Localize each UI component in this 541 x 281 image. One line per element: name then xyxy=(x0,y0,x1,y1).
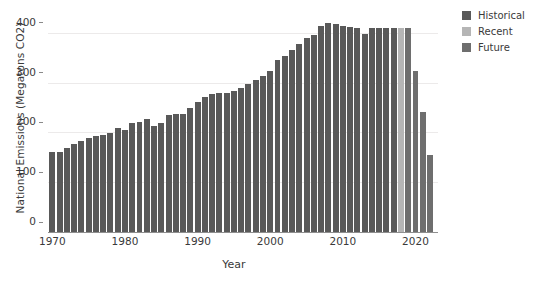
x-axis-title: Year xyxy=(48,258,420,271)
x-axis-tick-label: 2010 xyxy=(329,235,356,247)
bar xyxy=(369,28,375,233)
bar xyxy=(158,123,164,233)
legend-swatch xyxy=(462,27,471,36)
legend-item: Recent xyxy=(462,24,538,39)
y-tick-mark xyxy=(39,72,43,73)
bar xyxy=(115,128,121,233)
chart-legend: HistoricalRecentFuture xyxy=(462,8,538,56)
legend-swatch xyxy=(462,43,471,52)
bar xyxy=(180,114,186,233)
bar xyxy=(78,141,84,233)
bar xyxy=(86,138,92,233)
legend-item: Future xyxy=(462,40,538,55)
bar xyxy=(398,28,404,233)
bar xyxy=(405,28,411,233)
bar xyxy=(224,93,230,233)
bar xyxy=(166,115,172,233)
bar xyxy=(64,148,70,233)
bar xyxy=(260,76,266,233)
legend-label: Historical xyxy=(478,10,525,21)
bar xyxy=(137,122,143,233)
bar xyxy=(376,28,382,233)
bar xyxy=(245,84,251,233)
bar-chart-figure: National Emissions (Megatons CO2) 010020… xyxy=(0,0,541,281)
bar xyxy=(71,144,77,233)
bar xyxy=(195,102,201,233)
bar xyxy=(100,135,106,233)
y-axis-tick-label: 200 xyxy=(16,115,43,127)
bar xyxy=(325,23,331,233)
bar xyxy=(49,152,55,233)
legend-swatch xyxy=(462,11,471,20)
bar xyxy=(129,123,135,233)
y-axis-tick-label: 0 xyxy=(29,215,43,227)
bar xyxy=(289,50,295,233)
bar xyxy=(144,119,150,233)
bar xyxy=(216,93,222,233)
bar xyxy=(267,71,273,233)
y-axis-tick-label: 100 xyxy=(16,165,43,177)
x-axis-line xyxy=(48,232,438,233)
bar xyxy=(304,38,310,233)
x-axis-tick-label: 1970 xyxy=(39,235,66,247)
bar xyxy=(311,35,317,233)
y-tick-mark xyxy=(39,22,43,23)
bar xyxy=(333,24,339,233)
bar xyxy=(202,97,208,233)
bar xyxy=(347,27,353,233)
x-axis-tick-label: 2020 xyxy=(402,235,429,247)
x-axis-tick-label: 1980 xyxy=(112,235,139,247)
bar xyxy=(107,133,113,233)
y-tick-mark xyxy=(39,222,43,223)
legend-item: Historical xyxy=(462,8,538,23)
bar xyxy=(173,114,179,233)
plot-area: 0100200300400 197019801990200020102020 xyxy=(48,14,438,233)
x-axis-tick-label: 1990 xyxy=(184,235,211,247)
bar xyxy=(282,56,288,233)
y-tick-mark xyxy=(39,122,43,123)
bar xyxy=(238,88,244,233)
bar xyxy=(340,26,346,233)
bar xyxy=(391,28,397,233)
bar xyxy=(122,130,128,233)
bar xyxy=(362,34,368,233)
bar xyxy=(209,94,215,233)
y-axis-tick-label: 400 xyxy=(16,16,43,28)
legend-label: Recent xyxy=(478,26,513,37)
y-tick-mark xyxy=(39,172,43,173)
bar xyxy=(231,91,237,233)
bar xyxy=(383,28,389,233)
bar xyxy=(318,26,324,233)
bar xyxy=(93,136,99,233)
bar xyxy=(275,60,281,233)
bar xyxy=(151,126,157,233)
bar xyxy=(427,155,433,233)
bar xyxy=(253,80,259,233)
bar xyxy=(187,108,193,233)
legend-label: Future xyxy=(478,42,510,53)
bar xyxy=(296,44,302,233)
x-axis-tick-label: 2000 xyxy=(257,235,284,247)
bar xyxy=(354,28,360,233)
y-axis-tick-label: 300 xyxy=(16,66,43,78)
bar xyxy=(57,152,63,233)
bar xyxy=(413,71,419,233)
bars-container xyxy=(48,14,438,233)
bar xyxy=(420,112,426,233)
